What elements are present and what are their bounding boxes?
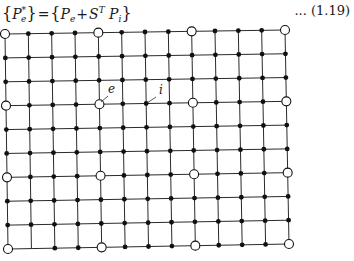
- external-node-circle: [281, 26, 290, 35]
- internal-node-dot: [239, 219, 244, 224]
- mesh-column-line: [262, 30, 266, 244]
- internal-node-dot: [123, 245, 128, 250]
- internal-node-dot: [262, 171, 267, 176]
- internal-node-dot: [120, 78, 125, 83]
- internal-node-dot: [215, 148, 220, 153]
- internal-node-dot: [283, 51, 288, 56]
- internal-node-dot: [28, 151, 33, 156]
- external-node-circle: [283, 168, 292, 177]
- internal-node-dot: [286, 194, 291, 199]
- internal-node-dot: [98, 150, 103, 155]
- internal-node-dot: [168, 125, 173, 130]
- internal-node-dot: [73, 78, 78, 83]
- node-label-e: e: [108, 82, 115, 96]
- mesh-column-line: [52, 33, 55, 248]
- internal-node-dot: [240, 242, 245, 247]
- internal-node-dot: [52, 246, 57, 251]
- internal-node-dot: [5, 223, 10, 228]
- internal-node-dot: [26, 55, 31, 60]
- internal-node-dot: [27, 103, 32, 108]
- external-node-circle: [96, 171, 105, 180]
- internal-node-dot: [96, 54, 101, 59]
- internal-node-dot: [191, 148, 196, 153]
- internal-node-dot: [97, 126, 102, 131]
- internal-node-dot: [3, 79, 8, 84]
- internal-node-dot: [145, 196, 150, 201]
- internal-node-dot: [166, 53, 171, 58]
- mesh-column-line: [215, 31, 219, 245]
- internal-node-dot: [286, 218, 291, 223]
- internal-node-dot: [216, 243, 221, 248]
- external-node-circle: [285, 240, 294, 249]
- internal-node-dot: [76, 245, 81, 250]
- internal-node-dot: [26, 31, 31, 36]
- internal-node-dot: [51, 150, 56, 155]
- mesh-column-line: [28, 34, 31, 249]
- internal-node-dot: [190, 77, 195, 82]
- internal-node-dot: [3, 55, 8, 60]
- mesh-column-line: [285, 30, 289, 244]
- external-node-circle: [190, 170, 199, 179]
- label-leader-line-i: [147, 97, 156, 103]
- internal-node-dot: [52, 222, 57, 227]
- mesh-column-line: [98, 33, 101, 248]
- internal-node-dot: [263, 218, 268, 223]
- mesh-column-line: [75, 33, 78, 248]
- internal-node-dot: [143, 77, 148, 82]
- internal-node-dot: [120, 54, 125, 59]
- internal-node-dot: [27, 127, 32, 132]
- internal-node-dot: [168, 148, 173, 153]
- internal-node-dot: [4, 151, 9, 156]
- internal-node-dot: [237, 76, 242, 81]
- internal-node-dot: [170, 244, 175, 249]
- internal-node-dot: [97, 78, 102, 83]
- internal-node-dot: [27, 79, 32, 84]
- internal-node-dot: [73, 31, 78, 36]
- internal-node-dot: [51, 174, 56, 179]
- mesh-column-line: [122, 32, 125, 247]
- internal-node-dot: [190, 53, 195, 58]
- internal-node-dot: [5, 199, 10, 204]
- internal-node-dot: [238, 123, 243, 128]
- internal-node-dot: [143, 30, 148, 35]
- internal-node-dot: [122, 221, 127, 226]
- internal-node-dot: [238, 147, 243, 152]
- internal-node-dot: [169, 220, 174, 225]
- mesh-column-line: [192, 31, 196, 245]
- internal-node-dot: [168, 172, 173, 177]
- internal-node-dot: [284, 123, 289, 128]
- internal-node-dot: [237, 100, 242, 105]
- internal-node-dot: [191, 124, 196, 129]
- external-node-circle: [3, 173, 12, 182]
- internal-node-dot: [283, 75, 288, 80]
- internal-node-dot: [213, 76, 218, 81]
- internal-node-dot: [75, 174, 80, 179]
- internal-node-dot: [166, 29, 171, 34]
- internal-node-dot: [236, 28, 241, 33]
- internal-node-dot: [167, 77, 172, 82]
- external-node-circle: [188, 98, 197, 107]
- internal-node-dot: [121, 149, 126, 154]
- internal-node-dot: [285, 146, 290, 151]
- external-node-circle: [282, 97, 291, 106]
- external-node-circle: [4, 245, 13, 254]
- internal-node-dot: [51, 126, 56, 131]
- internal-node-dot: [120, 101, 125, 106]
- internal-node-dot: [28, 175, 33, 180]
- internal-node-dot: [49, 31, 54, 36]
- internal-node-dot: [28, 198, 33, 203]
- internal-node-dot: [239, 195, 244, 200]
- internal-node-dot: [213, 52, 218, 57]
- internal-node-dot: [213, 29, 218, 34]
- internal-node-dot: [74, 102, 79, 107]
- internal-node-dot: [193, 219, 198, 224]
- finite-element-mesh-diagram: ei: [0, 0, 354, 261]
- internal-node-dot: [261, 99, 266, 104]
- internal-node-dot: [52, 198, 57, 203]
- internal-node-dot: [146, 220, 151, 225]
- internal-node-dot: [261, 123, 266, 128]
- internal-node-dot: [236, 52, 241, 57]
- external-node-circle: [2, 101, 11, 110]
- mesh-column-line: [168, 32, 172, 246]
- internal-node-dot: [145, 149, 150, 154]
